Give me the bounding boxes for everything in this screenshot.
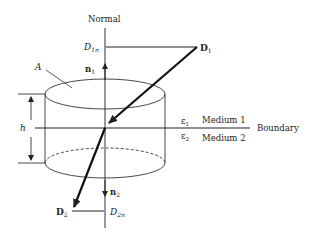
medium2-label: Medium 2 bbox=[202, 133, 246, 143]
d1-label: D1 bbox=[200, 43, 212, 54]
diagram-svg: Normal D1n D1 A n1 h ε1 Medium 1 Boundar… bbox=[0, 0, 316, 240]
area-leader bbox=[46, 70, 72, 88]
d2n-label: D2n bbox=[109, 207, 125, 218]
diagram-canvas: Normal D1n D1 A n1 h ε1 Medium 1 Boundar… bbox=[0, 0, 316, 240]
d1-vector bbox=[109, 47, 197, 123]
eps1-label: ε1 bbox=[181, 116, 189, 127]
area-label: A bbox=[34, 62, 42, 72]
normal-label: Normal bbox=[88, 14, 121, 24]
medium1-label: Medium 1 bbox=[202, 115, 246, 125]
d2-label: D2 bbox=[56, 207, 68, 218]
d2-vector bbox=[74, 128, 105, 207]
n1-label: n1 bbox=[85, 64, 95, 75]
h-label: h bbox=[20, 123, 26, 133]
n2-label: n2 bbox=[110, 187, 120, 198]
eps2-label: ε2 bbox=[181, 131, 189, 142]
boundary-label: Boundary bbox=[257, 123, 299, 133]
d1n-label: D1n bbox=[83, 42, 99, 53]
